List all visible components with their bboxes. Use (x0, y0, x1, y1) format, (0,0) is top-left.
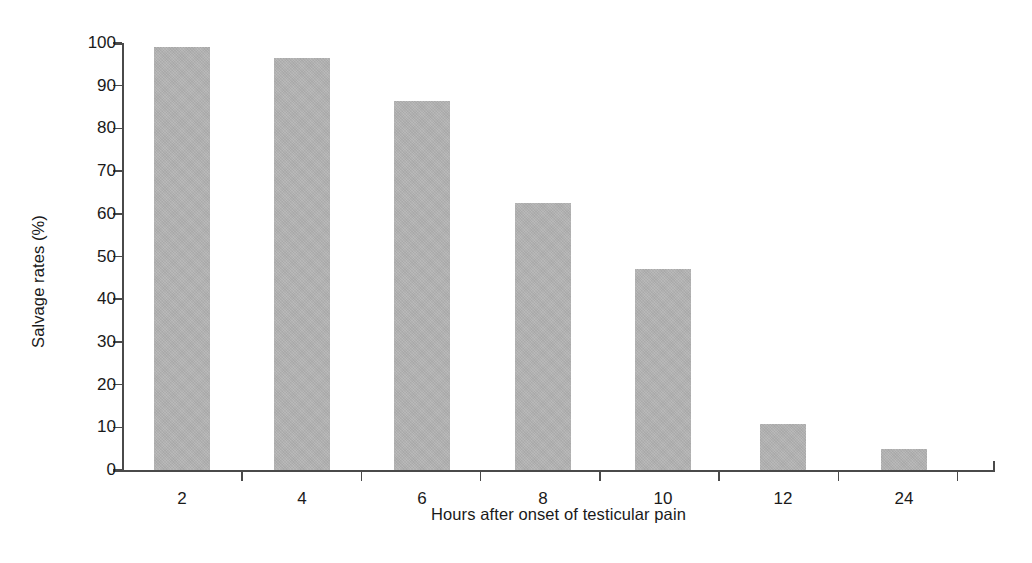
y-axis-tick-label: 10 (97, 417, 116, 437)
bar (635, 269, 691, 470)
y-axis-tick-label: 50 (97, 247, 116, 267)
bar-chart-figure: Salvage rates (%) 0102030405060708090100… (0, 0, 1032, 563)
y-axis-tick-label: 70 (97, 161, 116, 181)
x-axis-tick (599, 470, 601, 481)
x-axis-tick (718, 470, 720, 481)
bar (881, 449, 927, 470)
y-axis-tick-label: 90 (97, 76, 116, 96)
bar (154, 47, 210, 470)
bar (274, 58, 330, 470)
y-axis-title: Salvage rates (%) (18, 0, 58, 563)
bar (515, 203, 571, 470)
y-axis-tick-label: 40 (97, 289, 116, 309)
x-axis-tick (361, 470, 363, 481)
y-axis-tick-label: 30 (97, 332, 116, 352)
x-axis-end-cap (993, 461, 995, 471)
x-axis-tick (480, 470, 482, 481)
plot-area: 0102030405060708090100 2468101224 (122, 43, 995, 470)
x-axis-title: Hours after onset of testicular pain (122, 505, 995, 524)
y-axis-line (122, 43, 124, 470)
y-axis-tick-label: 80 (97, 118, 116, 138)
x-axis-tick (957, 470, 959, 481)
x-axis-line (113, 470, 995, 472)
bar (394, 101, 450, 470)
x-axis-tick (241, 470, 243, 481)
y-axis-tick-label: 20 (97, 375, 116, 395)
bar (760, 424, 806, 470)
y-axis-tick-label: 0 (107, 460, 116, 480)
y-axis-tick-label: 100 (88, 33, 116, 53)
x-axis-tick (838, 470, 840, 481)
y-axis-tick-label: 60 (97, 204, 116, 224)
